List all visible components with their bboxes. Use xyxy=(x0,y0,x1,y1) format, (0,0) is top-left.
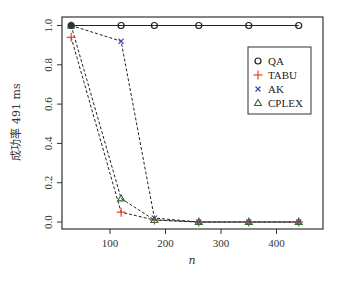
y-tick-label: 0.2 xyxy=(42,176,54,190)
legend-label: AK xyxy=(268,83,284,95)
y-tick-label: 1.0 xyxy=(42,18,54,32)
x-tick-label: 400 xyxy=(268,237,285,249)
x-axis-label: n xyxy=(188,254,195,267)
triangle-marker-icon xyxy=(118,195,125,201)
y-tick-label: 0.4 xyxy=(42,136,54,150)
legend-label: TABU xyxy=(268,69,297,81)
legend-label: CPLEX xyxy=(268,97,303,109)
x-tick-label: 200 xyxy=(157,237,174,249)
y-tick-label: 0.0 xyxy=(42,215,54,229)
legend-label: QA xyxy=(268,55,284,67)
x-tick-label: 100 xyxy=(102,237,119,249)
y-axis-label: 成功率 491 ms xyxy=(9,83,23,160)
overlap-point xyxy=(68,23,74,29)
y-tick-label: 0.8 xyxy=(42,57,54,71)
y-tick-label: 0.6 xyxy=(42,97,54,111)
success-rate-chart: 1002003004000.00.20.40.60.81.0 QATABUAKC… xyxy=(0,0,343,288)
legend: QATABUAKCPLEX xyxy=(248,47,311,114)
x-tick-label: 300 xyxy=(213,237,230,249)
